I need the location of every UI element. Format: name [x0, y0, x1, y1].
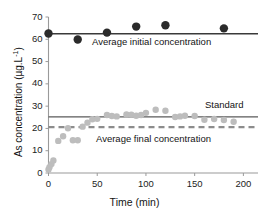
x-axis-tick-label: 0 [33, 179, 65, 189]
annotation-average-final-concentration: Average final concentration [96, 133, 211, 144]
data-point [162, 108, 168, 114]
data-point [211, 116, 217, 122]
data-point [74, 35, 82, 43]
data-point [75, 137, 81, 143]
x-axis-tick-label: 50 [81, 179, 113, 189]
data-point [44, 29, 52, 37]
x-axis-tick-label: 100 [130, 179, 162, 189]
data-point [132, 22, 140, 30]
data-point [201, 117, 207, 123]
data-point [65, 125, 71, 131]
y-axis-tick-label: 70 [15, 12, 43, 22]
reference-lines-layer [49, 34, 259, 127]
chart-figure: 706050403020100 050100150200 As concentr… [0, 0, 269, 220]
x-axis-tick-label: 200 [227, 179, 259, 189]
y-axis-title-tail: ) [13, 47, 24, 50]
y-axis-title-exponent: -1 [12, 51, 19, 57]
annotation-standard: Standard [205, 99, 244, 110]
data-point [161, 21, 169, 29]
data-point [55, 138, 61, 144]
data-point [191, 113, 197, 119]
data-point [114, 113, 120, 119]
data-point [182, 113, 188, 119]
data-point [143, 110, 149, 116]
x-axis-title: Time (min) [0, 196, 269, 208]
y-axis-title-base: As concentration (µg.L [13, 57, 24, 157]
data-point [230, 119, 236, 125]
data-point [60, 133, 66, 139]
data-point [220, 24, 228, 32]
data-point [221, 117, 227, 123]
data-point [50, 157, 56, 163]
data-point [94, 116, 100, 122]
data-point [152, 107, 158, 113]
y-axis-title: As concentration (µg.L-1) [12, 22, 24, 182]
annotation-average-initial-concentration: Average initial concentration [92, 36, 211, 47]
x-axis-tick-label: 150 [179, 179, 211, 189]
